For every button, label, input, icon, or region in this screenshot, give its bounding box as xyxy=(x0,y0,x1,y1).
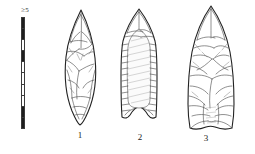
scale-segment xyxy=(22,40,24,51)
artifact-3-label: 3 xyxy=(199,133,213,143)
scale-segment xyxy=(22,107,24,118)
artifact-1-label: 1 xyxy=(73,130,87,140)
scale-bar xyxy=(21,17,25,129)
scale-segment xyxy=(22,85,24,96)
scale-segment xyxy=(22,73,24,84)
scale-segment xyxy=(22,51,24,62)
scale-segment xyxy=(22,96,24,107)
scale-bar-group: ≥5 xyxy=(12,6,38,131)
scale-label: ≥5 xyxy=(12,6,38,14)
scale-segment xyxy=(22,62,24,73)
scale-segment xyxy=(22,18,24,29)
artifact-1-drawing xyxy=(57,8,105,128)
artifact-2-drawing xyxy=(112,7,166,131)
scale-segment xyxy=(22,118,24,128)
artifact-2-label: 2 xyxy=(133,132,147,142)
figure-plate: ≥5 xyxy=(0,0,255,154)
scale-segment xyxy=(22,29,24,40)
artifact-3-drawing xyxy=(180,4,242,136)
